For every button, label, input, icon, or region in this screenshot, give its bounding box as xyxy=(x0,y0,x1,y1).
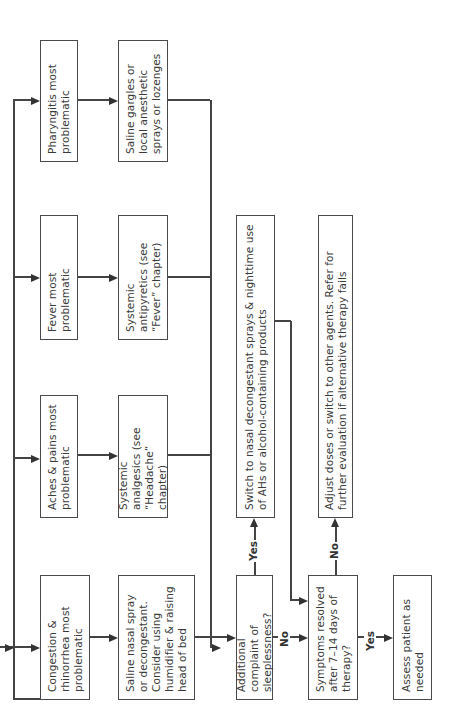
entry-arrow-icon xyxy=(5,644,14,652)
assess-action-box: Assess patient as needed xyxy=(393,575,432,700)
arrow-pharyngitis-treatment-icon xyxy=(109,97,118,105)
pharyngitis-symptom-box: Pharyngitis most problematic xyxy=(40,40,78,162)
branch-to-fever xyxy=(13,276,31,278)
connector-switch-to-resolved-h xyxy=(290,321,292,601)
connector-congestion-treatment xyxy=(90,636,109,638)
arrow-aches-icon xyxy=(31,455,40,463)
aches-symptom-box: Aches & pains most problematic xyxy=(40,395,78,518)
arrow-sleeplessness-no-icon xyxy=(299,634,308,642)
congestion-treatment-text: Saline nasal spray or decongestant. Cons… xyxy=(124,583,189,692)
sleeplessness-yes-label: Yes xyxy=(247,540,259,562)
aches-treatment-box: Systemic analgesics (see “Headache” chap… xyxy=(118,395,168,518)
switch-action-text: Switch to nasal decongestant sprays & ni… xyxy=(243,223,269,510)
arrow-resolved-yes-icon xyxy=(384,634,393,642)
arrow-sleeplessness-yes-icon xyxy=(250,518,258,527)
aches-treatment-text: Systemic analgesics (see “Headache” chap… xyxy=(117,403,169,510)
connector-fever-treatment xyxy=(78,276,109,278)
collector-pharyngitis xyxy=(168,99,210,101)
connector-to-sleeplessness xyxy=(195,636,227,638)
arrow-resolved-no-icon xyxy=(331,518,339,527)
flowchart-canvas: Congestion & rhinorrhea most problematic… xyxy=(0,0,450,710)
arrow-fever-treatment-icon xyxy=(109,274,118,282)
sleeplessness-decision-text: Additional complaint of sleeplessness? xyxy=(235,583,274,692)
collector-line xyxy=(210,100,212,648)
fever-treatment-text: Systemic antipyretics (see “Fever” chapt… xyxy=(124,223,163,332)
resolved-yes-label: Yes xyxy=(364,630,376,652)
pharyngitis-treatment-text: Saline gargles or local anesthetic spray… xyxy=(124,48,163,154)
resolved-decision-text: Symptoms resolved after 7–14 days of the… xyxy=(314,583,353,692)
pharyngitis-symptom-text: Pharyngitis most problematic xyxy=(46,48,72,154)
trunk-connector xyxy=(13,100,15,700)
aches-symptom-text: Aches & pains most problematic xyxy=(46,403,72,510)
connector-switch-to-resolved-v2 xyxy=(290,599,299,601)
branch-congestion-h xyxy=(13,699,15,700)
connector-pharyngitis-treatment xyxy=(78,99,109,101)
assess-action-text: Assess patient as needed xyxy=(400,583,426,692)
switch-action-box: Switch to nasal decongestant sprays & ni… xyxy=(236,215,275,518)
arrow-pharyngitis-icon xyxy=(31,97,40,105)
resolved-no-label: No xyxy=(328,542,340,560)
congestion-symptom-box: Congestion & rhinorrhea most problematic xyxy=(40,575,90,700)
fever-treatment-box: Systemic antipyretics (see “Fever” chapt… xyxy=(118,215,168,340)
collector-arrow-icon xyxy=(212,644,221,652)
arrow-congestion-icon xyxy=(31,644,40,652)
arrow-congestion-treatment-icon xyxy=(109,634,118,642)
branch-to-aches xyxy=(13,457,31,459)
sleeplessness-decision-box: Additional complaint of sleeplessness? xyxy=(236,575,273,700)
fever-symptom-text: Fever most problematic xyxy=(46,223,72,332)
adjust-action-text: Adjust doses or switch to other agents. … xyxy=(323,223,349,510)
pharyngitis-treatment-box: Saline gargles or local anesthetic spray… xyxy=(118,40,168,162)
congestion-treatment-box: Saline nasal spray or decongestant. Cons… xyxy=(118,575,195,700)
congestion-symptom-text: Congestion & rhinorrhea most problematic xyxy=(46,583,85,692)
resolved-decision-box: Symptoms resolved after 7–14 days of the… xyxy=(308,575,358,700)
adjust-action-box: Adjust doses or switch to other agents. … xyxy=(318,215,353,518)
connector-aches-treatment xyxy=(78,454,109,456)
branch-to-congestion xyxy=(13,646,31,648)
collector-fever xyxy=(168,276,210,278)
sleeplessness-no-label: No xyxy=(278,630,290,648)
fever-symptom-box: Fever most problematic xyxy=(40,215,78,340)
arrow-switch-to-resolved-icon xyxy=(299,597,308,605)
arrow-fever-icon xyxy=(31,274,40,282)
connector-switch-to-resolved-v1 xyxy=(275,320,291,322)
collector-aches xyxy=(168,454,210,456)
branch-to-pharyngitis xyxy=(13,99,31,101)
